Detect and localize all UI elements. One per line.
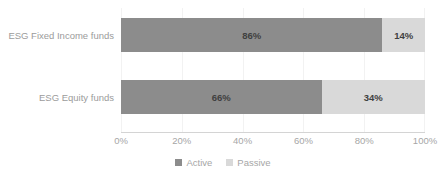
legend-label: Passive: [237, 157, 270, 168]
x-tick-label-100: 100%: [413, 135, 437, 146]
category-label-esg-equity-funds: ESG Equity funds: [0, 92, 114, 103]
chart-legend: Active Passive: [0, 157, 446, 168]
bar-data-label: 34%: [364, 92, 383, 103]
bar-data-label: 66%: [212, 92, 231, 103]
legend-item-active[interactable]: Active: [175, 157, 212, 168]
bar-data-label: 14%: [394, 30, 413, 41]
plot-area: 86% 14% 66% 34%: [121, 8, 425, 132]
stacked-bar-chart: 86% 14% 66% 34% ESG Fixed Income funds E…: [0, 0, 446, 183]
category-label-esg-fixed-income-funds: ESG Fixed Income funds: [0, 30, 114, 41]
bar-row: 86% 14%: [121, 18, 425, 52]
x-axis-tick-labels: 0% 20% 40% 60% 80% 100%: [121, 135, 425, 149]
x-tick-label-60: 60%: [294, 135, 313, 146]
x-tick-label-20: 20%: [172, 135, 191, 146]
x-axis-line: [121, 132, 425, 133]
bar-segment-passive[interactable]: 14%: [382, 18, 425, 52]
legend-item-passive[interactable]: Passive: [226, 157, 270, 168]
legend-swatch-icon: [175, 159, 182, 166]
x-tick-label-40: 40%: [233, 135, 252, 146]
bar-segment-active[interactable]: 66%: [121, 80, 322, 114]
x-tick-label-80: 80%: [355, 135, 374, 146]
legend-label: Active: [186, 157, 212, 168]
bar-row: 66% 34%: [121, 80, 425, 114]
legend-swatch-icon: [226, 159, 233, 166]
x-tick-label-0: 0%: [114, 135, 128, 146]
bar-segment-passive[interactable]: 34%: [322, 80, 425, 114]
bar-data-label: 86%: [242, 30, 261, 41]
bar-segment-active[interactable]: 86%: [121, 18, 382, 52]
